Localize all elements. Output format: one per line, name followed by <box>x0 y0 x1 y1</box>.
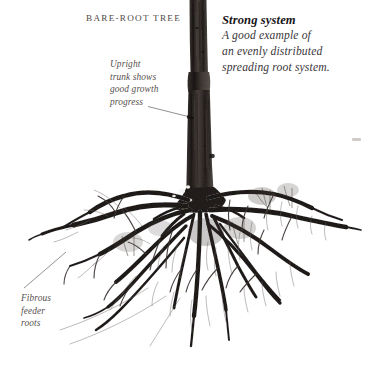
page-artifact-mark <box>352 138 361 141</box>
annotation-fibrous-roots: Fibrous feeder roots <box>21 292 51 330</box>
annotation-fibrous-line-2: feeder <box>21 305 51 318</box>
caption-body: A good example of an evenly distributed … <box>222 28 362 77</box>
caption-line-3: spreading root system. <box>222 60 362 76</box>
caption-line-1: A good example of <box>222 28 362 44</box>
annotation-upright-line-3: good growth <box>110 83 158 96</box>
caption-title: Strong system <box>222 12 362 28</box>
annotation-upright-line-2: trunk shows <box>110 71 158 84</box>
caption-line-2: an evenly distributed <box>222 44 362 60</box>
annotation-fibrous-line-3: roots <box>21 317 51 330</box>
caption-block: Strong system A good example of an evenl… <box>222 12 362 77</box>
annotation-upright-line-1: Upright <box>110 58 158 71</box>
annotation-fibrous-line-1: Fibrous <box>21 292 51 305</box>
figure-canvas: BARE-ROOT TREE Strong system A good exam… <box>0 0 367 365</box>
tree-trunk <box>172 0 226 213</box>
annotation-upright-trunk: Upright trunk shows good growth progress <box>110 58 158 108</box>
page-title: BARE-ROOT TREE <box>86 13 181 23</box>
root-system <box>29 192 361 346</box>
annotation-upright-line-4: progress <box>110 96 158 109</box>
